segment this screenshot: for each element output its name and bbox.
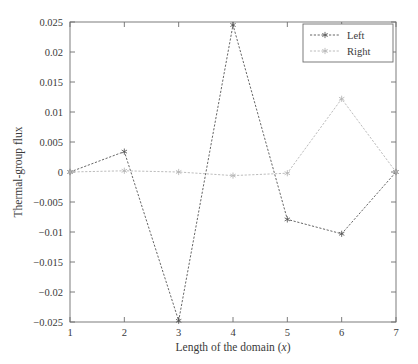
x-axis-title-main: Length of the domain ( bbox=[176, 341, 282, 354]
y-tick-label: 0.025 bbox=[39, 17, 63, 28]
x-tick-label: 7 bbox=[393, 327, 398, 338]
x-tick-label: 4 bbox=[230, 327, 236, 338]
y-axis-title: Thermal-group flux bbox=[12, 126, 25, 217]
y-tick-label: −0.025 bbox=[33, 317, 63, 328]
x-axis-title-tail: ) bbox=[287, 341, 291, 354]
chart-figure: 0.0250.020.0150.010.0050−0.005−0.01−0.01… bbox=[0, 0, 418, 364]
y-tick-label: −0.005 bbox=[33, 197, 63, 208]
x-axis-title: Length of the domain (x) bbox=[176, 341, 291, 354]
y-tick-label: −0.02 bbox=[39, 287, 63, 298]
x-tick-label: 5 bbox=[285, 327, 290, 338]
y-tick-label: 0 bbox=[58, 167, 63, 178]
y-tick-label: 0.02 bbox=[45, 47, 63, 58]
y-tick-label: −0.015 bbox=[33, 257, 63, 268]
legend-label-right: Right bbox=[347, 46, 370, 57]
x-tick-label: 1 bbox=[67, 327, 72, 338]
chart-legend: LeftRight bbox=[303, 24, 393, 62]
legend-label-left: Left bbox=[347, 30, 365, 41]
y-tick-label: 0.005 bbox=[39, 137, 63, 148]
x-tick-label: 6 bbox=[339, 327, 344, 338]
y-tick-label: 0.01 bbox=[45, 107, 63, 118]
y-tick-label: 0.015 bbox=[39, 77, 63, 88]
x-tick-label: 2 bbox=[122, 327, 127, 338]
x-tick-label: 3 bbox=[176, 327, 181, 338]
y-tick-label: −0.01 bbox=[39, 227, 63, 238]
